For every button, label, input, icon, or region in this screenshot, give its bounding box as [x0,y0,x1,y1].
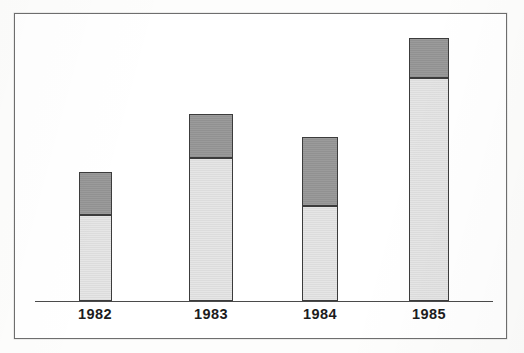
chart-frame: 1982 1983 1984 1985 [14,13,507,339]
plot-area: 1982 1983 1984 1985 [15,14,508,340]
bar-1985-lower-segment [409,78,449,301]
bar-1983-lower-segment [189,158,233,301]
axis-label-1983: 1983 [171,306,251,322]
bar-1985-upper-segment [409,38,449,78]
bar-1984-lower-segment [302,206,338,301]
axis-label-1982: 1982 [55,306,135,322]
bar-1982 [79,172,112,301]
axis-label-1985: 1985 [389,306,469,322]
axis-label-1984: 1984 [280,306,360,322]
bar-1985 [409,38,449,301]
bar-1984 [302,137,338,301]
bar-1982-upper-segment [79,172,112,215]
bar-1983-upper-segment [189,114,233,158]
bar-1984-upper-segment [302,137,338,206]
bar-1982-lower-segment [79,215,112,301]
bar-1983 [189,114,233,301]
scanned-page: 1982 1983 1984 1985 [0,0,524,353]
category-axis-line [35,301,493,302]
